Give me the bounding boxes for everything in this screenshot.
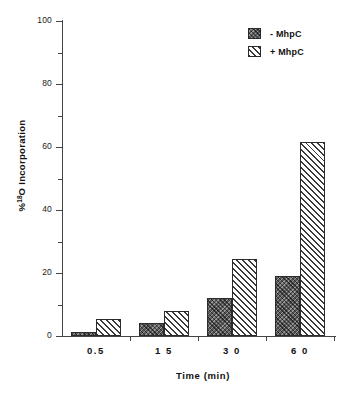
legend-item: - MhpC bbox=[248, 26, 304, 41]
bar bbox=[232, 259, 257, 336]
y-axis-tick-major: 100 bbox=[56, 21, 62, 22]
legend-swatch-icon bbox=[248, 46, 261, 57]
x-axis-tick bbox=[266, 336, 267, 341]
y-axis-title-percent: % bbox=[16, 203, 27, 212]
y-axis-tick-minor bbox=[58, 305, 62, 306]
bar-chart-figure: %18O Incorporation Time (min) 0204060801… bbox=[0, 0, 354, 397]
legend-item: + MhpC bbox=[248, 44, 304, 59]
bar bbox=[300, 142, 325, 336]
y-axis-title: %18O Incorporation bbox=[16, 66, 27, 266]
bar bbox=[275, 276, 300, 336]
x-axis-tick-label: 3 0 bbox=[202, 345, 262, 356]
legend-item-label: + MhpC bbox=[270, 47, 304, 57]
legend: - MhpC+ MhpC bbox=[248, 26, 304, 62]
y-axis-tick-minor bbox=[58, 116, 62, 117]
y-axis-tick-label: 20 bbox=[42, 267, 52, 278]
y-axis-tick-major: 40 bbox=[56, 210, 62, 211]
x-axis-tick bbox=[198, 336, 199, 341]
bar bbox=[207, 298, 232, 336]
x-axis-tick-label: 1 5 bbox=[134, 345, 194, 356]
bar bbox=[71, 332, 96, 336]
legend-swatch-icon bbox=[248, 28, 261, 39]
bar bbox=[96, 319, 121, 336]
y-axis-title-rest: O Incorporation bbox=[16, 120, 27, 196]
y-axis-tick-major: 0 bbox=[56, 336, 62, 337]
y-axis-tick-label: 80 bbox=[42, 78, 52, 89]
x-axis-tick bbox=[130, 336, 131, 341]
bar bbox=[164, 311, 189, 336]
y-axis-tick-label: 60 bbox=[42, 141, 52, 152]
y-axis-tick-label: 0 bbox=[47, 330, 52, 341]
y-axis-tick-major: 20 bbox=[56, 273, 62, 274]
y-axis-tick-minor bbox=[58, 179, 62, 180]
x-axis-tick-label: 0.5 bbox=[66, 345, 126, 356]
y-axis-tick-label: 100 bbox=[37, 15, 52, 26]
x-axis-line bbox=[62, 336, 336, 337]
bar bbox=[139, 323, 164, 336]
x-axis-tick bbox=[334, 336, 335, 341]
y-axis-tick-minor bbox=[58, 242, 62, 243]
x-axis-title: Time (min) bbox=[0, 370, 354, 381]
plot-area bbox=[62, 21, 334, 336]
y-axis-tick-minor bbox=[58, 53, 62, 54]
x-axis-tick-label: 6 0 bbox=[270, 345, 330, 356]
legend-item-label: - MhpC bbox=[270, 29, 302, 39]
y-axis-tick-major: 60 bbox=[56, 147, 62, 148]
y-axis-tick-major: 80 bbox=[56, 84, 62, 85]
y-axis-tick-label: 40 bbox=[42, 204, 52, 215]
y-axis-title-superscript: 18 bbox=[16, 195, 23, 202]
